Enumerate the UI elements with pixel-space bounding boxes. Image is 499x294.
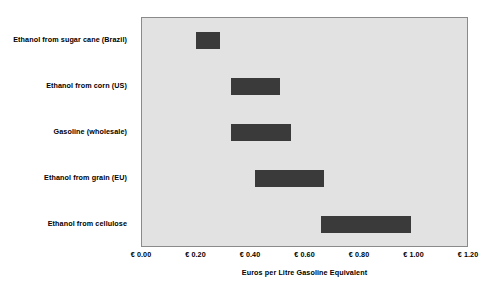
range-bar	[231, 78, 280, 95]
x-tick-label: € 1.00	[403, 250, 424, 259]
x-tick-label: € 0.60	[294, 250, 315, 259]
range-bar	[255, 170, 323, 187]
category-label: Ethanol from cellulose	[0, 219, 134, 228]
range-bar	[321, 216, 411, 233]
category-label: Ethanol from grain (EU)	[0, 173, 134, 182]
x-tick-label: € 0.00	[131, 250, 152, 259]
x-axis-title: Euros per Litre Gasoline Equivalent	[141, 268, 468, 277]
range-bar-chart: Ethanol from sugar cane (Brazil)Ethanol …	[0, 0, 499, 294]
range-bar	[196, 32, 221, 49]
x-tick-label: € 1.20	[458, 250, 479, 259]
x-tick-label: € 0.40	[240, 250, 261, 259]
category-label: Ethanol from sugar cane (Brazil)	[0, 35, 134, 44]
range-bar	[231, 124, 291, 141]
x-tick-label: € 0.20	[185, 250, 206, 259]
category-label: Ethanol from corn (US)	[0, 81, 134, 90]
category-label: Gasoline (wholesale)	[0, 127, 134, 136]
x-tick-label: € 0.80	[349, 250, 370, 259]
plot-area	[141, 17, 468, 247]
